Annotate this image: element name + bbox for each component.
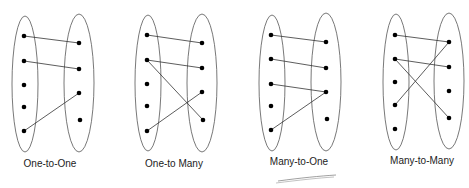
codomain-element-dot [447, 40, 452, 45]
codomain-element-dot [77, 91, 82, 96]
domain-element-dot [145, 33, 150, 38]
codomain-element-dot [324, 66, 329, 71]
domain-element-dot [22, 34, 27, 39]
mapping-diagram-one-to-many: One-to Many [135, 14, 217, 169]
codomain-element-dot [324, 40, 329, 45]
mapping-arrow [271, 84, 326, 92]
diagram-label: One-to Many [145, 158, 203, 169]
codomain-set-ellipse [64, 14, 94, 152]
codomain-element-dot [200, 66, 205, 71]
domain-element-dot [22, 129, 27, 134]
mapping-arrow [395, 35, 449, 42]
domain-element-dot [269, 57, 274, 62]
domain-element-dot [145, 104, 150, 109]
codomain-element-dot [325, 117, 330, 122]
mapping-arrow [271, 35, 326, 42]
codomain-set-ellipse [434, 13, 464, 149]
domain-element-dot [145, 82, 150, 87]
domain-element-dot [22, 59, 27, 64]
domain-element-dot [393, 103, 398, 108]
mapping-arrow [395, 59, 449, 67]
domain-element-dot [269, 128, 274, 133]
codomain-set-ellipse [187, 14, 217, 152]
mapping-arrow [271, 92, 326, 130]
domain-element-dot [393, 33, 398, 38]
mapping-arrow [24, 36, 79, 43]
domain-element-dot [145, 58, 150, 63]
mapping-arrow [24, 93, 79, 131]
codomain-element-dot [447, 89, 452, 94]
mapping-arrow [24, 61, 79, 69]
domain-element-dot [145, 129, 150, 134]
mapping-arrow [395, 59, 449, 118]
relation-diagrams: One-to-OneOne-to ManyMany-to-OneMany-to-… [0, 0, 469, 188]
mapping-arrow [147, 35, 202, 43]
domain-element-dot [22, 105, 27, 110]
mapping-arrow [147, 60, 202, 68]
codomain-element-dot [200, 90, 205, 95]
mapping-arrow [271, 59, 326, 68]
mapping-arrow [147, 92, 202, 131]
diagram-label: Many-to-Many [390, 155, 454, 166]
domain-element-dot [393, 127, 398, 132]
diagram-label: Many-to-One [270, 156, 329, 167]
codomain-set-ellipse [311, 13, 341, 151]
mapping-arrow [395, 42, 449, 105]
mapping-diagram-many-to-many: Many-to-Many [383, 13, 464, 166]
codomain-element-dot [77, 67, 82, 72]
mapping-diagram-one-to-one: One-to-One [12, 14, 94, 169]
domain-element-dot [393, 80, 398, 85]
codomain-element-dot [447, 116, 452, 121]
domain-element-dot [269, 82, 274, 87]
codomain-element-dot [78, 118, 83, 123]
codomain-element-dot [200, 41, 205, 46]
domain-element-dot [22, 83, 27, 88]
domain-element-dot [393, 57, 398, 62]
codomain-element-dot [201, 118, 206, 123]
codomain-element-dot [77, 41, 82, 46]
mapping-diagram-many-to-one: Many-to-One [259, 13, 341, 183]
codomain-element-dot [324, 90, 329, 95]
hand-drawn-underline [278, 175, 336, 181]
domain-element-dot [269, 104, 274, 109]
codomain-element-dot [447, 65, 452, 70]
domain-element-dot [269, 33, 274, 38]
diagram-label: One-to-One [24, 158, 77, 169]
